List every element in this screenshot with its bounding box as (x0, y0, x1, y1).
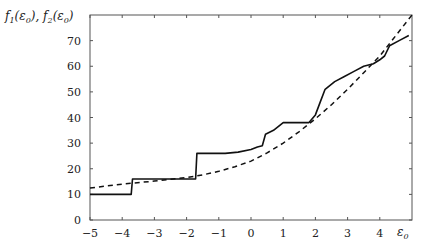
plot-frame (90, 15, 412, 220)
x-tick-label: 4 (376, 227, 383, 240)
plot-axes (90, 15, 412, 220)
series-f1-solid-line (90, 36, 409, 195)
series-lines (90, 15, 412, 194)
y-tick-label: 60 (67, 60, 81, 73)
y-tick-label: 30 (67, 137, 81, 150)
y-tick-label: 50 (67, 86, 81, 99)
y-axis-label: f1(ε0), f2(ε0) (4, 9, 74, 25)
x-axis-label: ε0 (397, 225, 409, 241)
x-tick-label: −5 (82, 227, 98, 240)
y-tick-label: 10 (67, 188, 81, 201)
line-chart: 010203040506070 −5−4−3−2−101234 f1(ε0), … (0, 0, 425, 244)
x-tick-label: −2 (178, 227, 194, 240)
y-axis-ticks: 010203040506070 (67, 35, 412, 227)
x-tick-label: −4 (114, 227, 130, 240)
x-tick-label: 2 (312, 227, 319, 240)
x-axis-ticks: −5−4−3−2−101234 (82, 15, 383, 240)
x-tick-label: 1 (280, 227, 287, 240)
y-tick-label: 40 (67, 112, 81, 125)
y-tick-label: 20 (67, 163, 81, 176)
series-f2-dashed-line (90, 15, 412, 188)
x-tick-label: 0 (248, 227, 255, 240)
y-tick-label: 0 (74, 214, 81, 227)
x-tick-label: 3 (344, 227, 351, 240)
x-tick-label: −3 (146, 227, 162, 240)
y-tick-label: 70 (67, 35, 81, 48)
x-tick-label: −1 (211, 227, 227, 240)
